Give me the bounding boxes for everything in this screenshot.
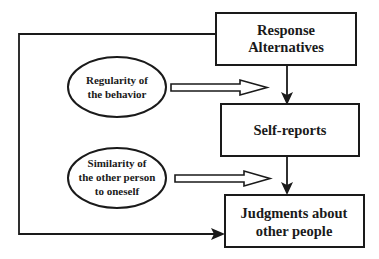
node-similarity-line2: the other person xyxy=(79,171,156,183)
node-regularity-line2: the behavior xyxy=(88,88,147,100)
node-judgments-line1: Judgments about xyxy=(241,205,348,221)
node-response-alternatives-line2: Alternatives xyxy=(248,39,324,55)
node-judgments-line2: other people xyxy=(256,223,333,239)
node-self-reports-label: Self-reports xyxy=(253,122,326,138)
hollow-arrow-icon xyxy=(171,80,267,95)
hollow-arrow-regularity xyxy=(171,80,267,95)
node-similarity-line3: to oneself xyxy=(95,185,140,197)
node-similarity-line1: Similarity of xyxy=(88,157,147,169)
node-response-alternatives-line1: Response xyxy=(257,22,316,38)
node-regularity-line1: Regularity of xyxy=(86,74,148,86)
node-response-alternatives: Response Alternatives xyxy=(216,13,356,65)
node-self-reports: Self-reports xyxy=(221,104,359,156)
arrow-selfreports-to-judgments xyxy=(281,156,293,195)
hollow-arrow-icon xyxy=(175,171,270,186)
arrow-response-to-selfreports xyxy=(281,65,293,105)
node-similarity: Similarity of the other person to onesel… xyxy=(68,148,166,208)
moderation-diagram: Response Alternatives Self-reports Judgm… xyxy=(0,0,379,259)
node-judgments: Judgments about other people xyxy=(225,195,364,247)
hollow-arrow-similarity xyxy=(175,171,270,186)
node-regularity: Regularity of the behavior xyxy=(68,57,166,117)
